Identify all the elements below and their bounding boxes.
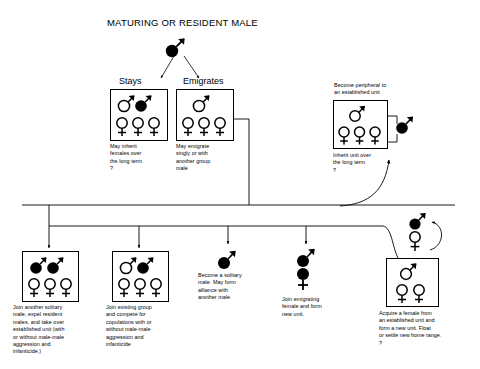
caption-line: female and form (282, 303, 354, 310)
female-symbols (119, 279, 161, 297)
female-symbols (183, 118, 225, 136)
diagram-canvas: MATURING OR RESIDENT MALE Stays (0, 0, 480, 369)
male-symbol-filled (30, 257, 46, 274)
caption-line: females over (110, 150, 172, 157)
emigrates-unit-box (176, 89, 234, 141)
caption-line: ? (110, 165, 172, 172)
female-symbol-hollow (410, 232, 420, 251)
male-symbol-filled (137, 257, 153, 274)
peripheral-unit-caption: Inherit unit over the long term ? (333, 152, 407, 174)
peripheral-unit-heading: Become peripheral to an established unit (334, 82, 434, 97)
caption-line: infanticide (106, 341, 192, 348)
join-group-unit-symbols (113, 252, 168, 301)
female-symbols (339, 127, 380, 145)
caption-line: ? (379, 340, 479, 347)
caption-line: Join existing group (106, 304, 192, 311)
caption-line: another group (176, 158, 240, 165)
caption-line: copulations with or (106, 319, 192, 326)
heading-line: Become peripheral to (334, 82, 434, 89)
female-symbols (117, 118, 159, 136)
male-symbol-filled (135, 95, 151, 112)
male-symbol-hollow (193, 95, 209, 111)
caption-line: infanticide.) (13, 348, 101, 355)
female-symbols (397, 285, 424, 303)
caption-line: aggression and (106, 334, 192, 341)
caption-line: without male-male (106, 326, 192, 333)
takeover-unit-caption: Join another solitary male, expel reside… (13, 304, 101, 356)
caption-line: an established unit and (379, 317, 479, 324)
caption-line: established unit (with (13, 326, 101, 333)
branch-label-emigrates: Emigrates (183, 76, 224, 86)
join-group-unit-box (112, 251, 169, 302)
acquire-pair-symbols (406, 210, 434, 258)
caption-line: new unit. (282, 311, 354, 318)
male-symbol-filled (297, 249, 315, 267)
acquire-female-unit-caption: Acquire a female from an established uni… (379, 310, 479, 347)
caption-line: Join another solitary (13, 304, 101, 311)
new-pair-unit-caption: Join emigrating female and form new unit… (282, 296, 354, 318)
caption-line: males, and take over (13, 319, 101, 326)
solitary-male-symbol (215, 246, 241, 272)
male-symbol-filled (409, 213, 425, 230)
caption-line: the long term (110, 158, 172, 165)
caption-line: ? (333, 167, 407, 174)
emigrates-unit-symbols (177, 90, 233, 140)
solitary-male-caption: Become a solitary male. May form allianc… (198, 272, 278, 302)
male-symbol-hollow (120, 257, 136, 273)
caption-line: or without male-male (13, 334, 101, 341)
emigrates-unit-caption: May emigrate singly or with another grou… (176, 143, 240, 173)
new-pair-unit-symbols (294, 246, 322, 294)
branch-label-stays: Stays (119, 76, 142, 86)
caption-line: another male. (198, 294, 278, 301)
bar-right-tail (440, 190, 455, 205)
female-symbol-filled (297, 268, 309, 290)
caption-line: Become a solitary (198, 272, 278, 279)
caption-line: male, expel resident (13, 311, 101, 318)
male-symbol-filled (47, 257, 63, 274)
caption-line: form a new unit. Float (379, 325, 479, 332)
peripheral-unit-symbols (334, 101, 387, 148)
caption-line: May emigrate (176, 143, 240, 150)
peripheral-unit-box (333, 100, 388, 149)
stays-unit-caption: May inherit females over the long term ? (110, 143, 172, 173)
caption-line: aggression and (13, 341, 101, 348)
male-symbol-hollow (350, 106, 365, 121)
takeover-unit-symbols (23, 252, 78, 301)
caption-line: Join emigrating (282, 296, 354, 303)
diagram-title: MATURING OR RESIDENT MALE (107, 17, 258, 28)
caption-line: Inherit unit over (333, 152, 407, 159)
takeover-unit-box (22, 251, 79, 302)
caption-line: male (176, 165, 240, 172)
join-group-unit-caption: Join existing group and compete for copu… (106, 304, 192, 348)
caption-line: Acquire a female from (379, 310, 479, 317)
stays-unit-symbols (111, 90, 167, 140)
caption-line: May inherit (110, 143, 172, 150)
caption-line: singly or with (176, 150, 240, 157)
acquire-female-unit-box (386, 258, 439, 307)
male-symbol-hollow (401, 263, 417, 279)
caption-line: alliance with (198, 287, 278, 294)
stays-unit-box (110, 89, 168, 141)
heading-line: an established unit (334, 89, 434, 96)
caption-line: or settle new home range. (379, 332, 479, 339)
male-symbol-hollow (118, 95, 134, 111)
acquire-female-unit-symbols (387, 259, 438, 306)
caption-line: male. May form (198, 279, 278, 286)
peripheral-male-symbol (394, 112, 418, 136)
root-male-symbol (163, 34, 189, 60)
caption-line: and compete for (106, 311, 192, 318)
caption-line: the long term (333, 159, 407, 166)
female-symbols (29, 279, 71, 297)
